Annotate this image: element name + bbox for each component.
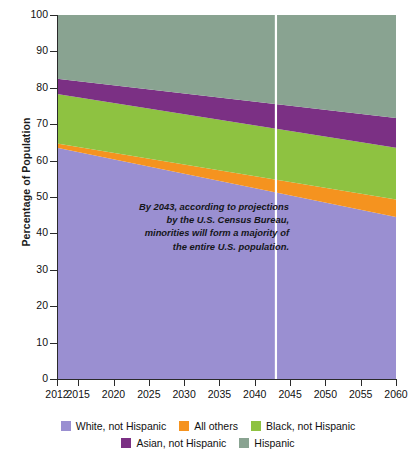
chart-annotation: By 2043, according to projectionsby the …	[84, 200, 289, 253]
y-tick-label: 70	[14, 117, 48, 129]
y-tick-label: 80	[14, 81, 48, 93]
legend-label: Asian, not Hispanic	[136, 437, 226, 449]
y-tick-label: 50	[14, 190, 48, 202]
x-tick-label: 2040	[235, 388, 275, 400]
y-tick-mark	[50, 270, 57, 271]
legend-item[interactable]: White, not Hispanic	[61, 420, 166, 432]
y-tick-mark	[50, 88, 57, 89]
y-tick-mark	[50, 306, 57, 307]
x-tick-label: 2050	[305, 388, 345, 400]
annotation-line: minorities will form a majority of	[84, 226, 289, 239]
y-tick-mark	[50, 233, 57, 234]
legend-swatch-icon	[121, 438, 131, 448]
legend-swatch-icon	[251, 421, 261, 431]
y-axis-title: Percentage of Population	[20, 82, 32, 282]
x-tick-mark	[290, 379, 291, 386]
x-tick-mark	[114, 379, 115, 386]
legend-label: White, not Hispanic	[76, 420, 166, 432]
y-tick-label: 100	[14, 8, 48, 20]
x-tick-mark	[57, 379, 58, 386]
x-tick-label: 2020	[94, 388, 134, 400]
x-tick-label: 2025	[129, 388, 169, 400]
y-tick-mark	[50, 124, 57, 125]
x-tick-label: 2030	[164, 388, 204, 400]
chart-legend: White, not HispanicAll othersBlack, not …	[0, 417, 416, 451]
legend-row: Asian, not HispanicHispanic	[0, 434, 416, 451]
annotation-line: the entire U.S. population.	[84, 240, 289, 253]
legend-item[interactable]: All others	[179, 420, 238, 432]
y-axis-line	[57, 15, 58, 380]
legend-label: Hispanic	[254, 437, 294, 449]
x-axis-line	[57, 379, 396, 380]
legend-label: All others	[194, 420, 238, 432]
x-tick-mark	[184, 379, 185, 386]
legend-swatch-icon	[179, 421, 189, 431]
x-tick-mark	[396, 379, 397, 386]
x-tick-label: 2035	[199, 388, 239, 400]
y-tick-mark	[50, 15, 57, 16]
y-tick-label: 10	[14, 336, 48, 348]
y-tick-label: 20	[14, 299, 48, 311]
y-tick-label: 30	[14, 263, 48, 275]
legend-item[interactable]: Asian, not Hispanic	[121, 437, 226, 449]
annotation-line: By 2043, according to projections	[84, 200, 289, 213]
y-tick-label: 40	[14, 226, 48, 238]
legend-row: White, not HispanicAll othersBlack, not …	[0, 417, 416, 434]
x-tick-mark	[255, 379, 256, 386]
y-tick-mark	[50, 161, 57, 162]
y-tick-label: 90	[14, 44, 48, 56]
plot-area	[57, 15, 396, 379]
legend-label: Black, not Hispanic	[266, 420, 355, 432]
y-tick-mark	[50, 343, 57, 344]
area-bands	[57, 15, 396, 379]
legend-swatch-icon	[239, 438, 249, 448]
x-tick-mark	[78, 379, 79, 386]
x-tick-mark	[219, 379, 220, 386]
x-tick-label: 2060	[376, 388, 416, 400]
x-tick-label: 2055	[341, 388, 381, 400]
x-tick-mark	[149, 379, 150, 386]
legend-item[interactable]: Black, not Hispanic	[251, 420, 355, 432]
x-tick-label: 2045	[270, 388, 310, 400]
y-tick-label: 0	[14, 372, 48, 384]
y-tick-label: 60	[14, 154, 48, 166]
legend-item[interactable]: Hispanic	[239, 437, 294, 449]
annotation-line: by the U.S. Census Bureau,	[84, 213, 289, 226]
y-tick-mark	[50, 379, 57, 380]
x-tick-label: 2015	[58, 388, 98, 400]
stacked-area-chart: Percentage of Population 010203040506070…	[0, 0, 416, 453]
x-tick-mark	[361, 379, 362, 386]
x-tick-mark	[325, 379, 326, 386]
y-tick-mark	[50, 197, 57, 198]
y-tick-mark	[50, 51, 57, 52]
legend-swatch-icon	[61, 421, 71, 431]
